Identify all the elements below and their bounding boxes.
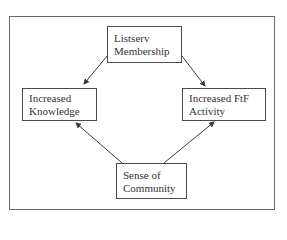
arrow-community-to-knowledge: [76, 123, 122, 163]
node-sense-of-community: Sense of Community: [116, 163, 187, 199]
node-label-line2: Knowledge: [29, 105, 96, 118]
node-label-line1: Sense of: [123, 169, 186, 182]
node-label-line1: Increased FtF: [189, 92, 265, 105]
node-label-line2: Activity: [189, 105, 265, 118]
arrow-listserv-to-ftf: [182, 56, 205, 86]
node-label-line1: Listserv: [114, 32, 181, 45]
arrow-community-to-ftf: [164, 122, 214, 163]
node-label-line2: Membership: [114, 45, 181, 58]
node-label-line2: Community: [123, 182, 186, 195]
node-listserv-membership: Listserv Membership: [107, 26, 182, 63]
node-label-line1: Increased: [29, 92, 96, 105]
arrow-listserv-to-knowledge: [84, 56, 107, 84]
node-increased-knowledge: Increased Knowledge: [22, 88, 97, 121]
node-increased-ftf-activity: Increased FtF Activity: [182, 88, 266, 121]
